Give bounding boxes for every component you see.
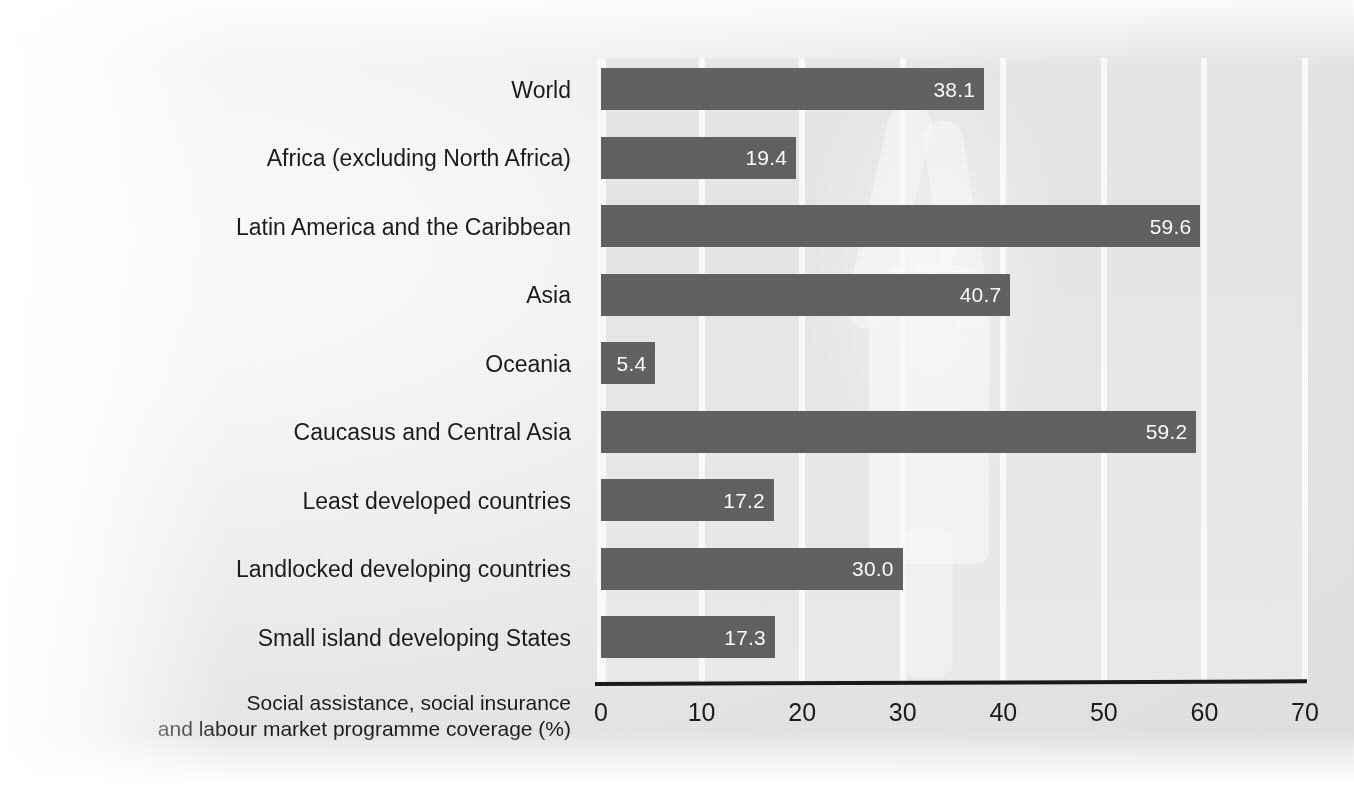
bar[interactable]: 17.2	[601, 479, 774, 521]
bar-value-label: 19.4	[745, 147, 796, 168]
bar-value-label: 30.0	[852, 558, 903, 579]
category-label: World	[0, 79, 585, 102]
left-vignette	[0, 0, 230, 793]
x-tick-label-70: 70	[1270, 700, 1340, 725]
bar[interactable]: 59.6	[601, 205, 1200, 247]
bar[interactable]: 5.4	[601, 342, 655, 384]
bar[interactable]: 17.3	[601, 616, 775, 658]
bar-value-label: 17.3	[724, 627, 775, 648]
bar-value-label: 5.4	[617, 353, 656, 374]
bar-value-label: 40.7	[960, 284, 1011, 305]
bar-value-label: 59.6	[1150, 216, 1201, 237]
bar[interactable]: 19.4	[601, 137, 796, 179]
category-label: Small island developing States	[0, 627, 585, 650]
x-tick-label-50: 50	[1069, 700, 1139, 725]
bottom-fade	[0, 733, 1354, 793]
bar-value-label: 38.1	[933, 79, 984, 100]
x-tick-label-30: 30	[868, 700, 938, 725]
x-tick-label-10: 10	[667, 700, 737, 725]
category-label: Latin America and the Caribbean	[0, 216, 585, 239]
bar-value-label: 59.2	[1146, 421, 1197, 442]
bar[interactable]: 30.0	[601, 548, 903, 590]
bar-series: 38.119.459.640.75.459.217.230.017.3	[601, 58, 1305, 683]
category-label: Asia	[0, 284, 585, 307]
category-label: Least developed countries	[0, 490, 585, 513]
bar-value-label: 17.2	[723, 490, 774, 511]
bar[interactable]: 38.1	[601, 68, 984, 110]
category-label: Oceania	[0, 353, 585, 376]
category-label: Landlocked developing countries	[0, 558, 585, 581]
plot-area: 38.119.459.640.75.459.217.230.017.3	[601, 58, 1305, 683]
x-tick-label-0: 0	[566, 700, 636, 725]
bar[interactable]: 59.2	[601, 411, 1196, 453]
category-label: Caucasus and Central Asia	[0, 421, 585, 444]
chart-page: 38.119.459.640.75.459.217.230.017.3 Worl…	[0, 0, 1354, 793]
bar[interactable]: 40.7	[601, 274, 1010, 316]
x-tick-label-40: 40	[968, 700, 1038, 725]
x-tick-label-20: 20	[767, 700, 837, 725]
category-label: Africa (excluding North Africa)	[0, 147, 585, 170]
x-axis-tick-labels: 010203040506070	[0, 700, 1354, 740]
x-tick-label-60: 60	[1169, 700, 1239, 725]
